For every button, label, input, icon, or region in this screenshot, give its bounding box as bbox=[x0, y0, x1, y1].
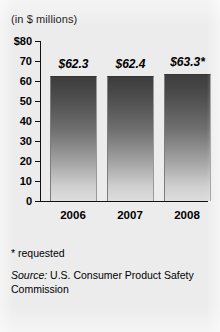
y-tick-mark-60 bbox=[35, 81, 40, 82]
y-tick-label-0: 0 bbox=[26, 196, 32, 207]
y-tick-mark-20 bbox=[35, 161, 40, 162]
y-tick-mark-0 bbox=[35, 201, 40, 202]
y-tick-label-70: 70 bbox=[20, 56, 32, 67]
x-axis-label-2006: 2006 bbox=[60, 209, 86, 222]
bar-2008[interactable]: $63.3* bbox=[164, 74, 211, 201]
y-tick-label-10: 10 bbox=[20, 176, 32, 187]
y-tick-mark-80 bbox=[35, 41, 40, 42]
y-tick-label-60: 60 bbox=[20, 76, 32, 87]
source-label: Source: bbox=[11, 269, 47, 281]
x-axis-label-2007: 2007 bbox=[117, 209, 143, 222]
y-tick-label-80: $80 bbox=[14, 36, 32, 47]
chart-card: (in $ millions) $80 70 60 50 40 30 bbox=[0, 0, 220, 332]
y-tick-mark-50 bbox=[35, 101, 40, 102]
y-tick-label-50: 50 bbox=[20, 96, 32, 107]
bar-value-2008: $63.3* bbox=[170, 56, 205, 69]
y-tick-label-40: 40 bbox=[20, 116, 32, 127]
y-tick-label-30: 30 bbox=[20, 136, 32, 147]
plot-area: $80 70 60 50 40 30 20 10 bbox=[40, 41, 208, 202]
y-tick-mark-70 bbox=[35, 61, 40, 62]
y-tick-mark-40 bbox=[35, 121, 40, 122]
y-tick-mark-30 bbox=[35, 141, 40, 142]
bar-2007[interactable]: $62.4 bbox=[107, 76, 154, 201]
y-tick-label-20: 20 bbox=[20, 156, 32, 167]
x-axis-line bbox=[40, 201, 208, 202]
y-tick-mark-10 bbox=[35, 181, 40, 182]
x-axis-label-2008: 2008 bbox=[174, 209, 200, 222]
bar-value-2007: $62.4 bbox=[115, 58, 145, 71]
units-caption: (in $ millions) bbox=[11, 13, 77, 26]
bar-2006[interactable]: $62.3 bbox=[50, 76, 97, 201]
footnote-requested: * requested bbox=[11, 247, 65, 260]
bar-value-2006: $62.3 bbox=[58, 58, 88, 71]
source-note: Source: U.S. Consumer Product Safety Com… bbox=[11, 268, 211, 296]
y-axis-line bbox=[40, 41, 41, 202]
